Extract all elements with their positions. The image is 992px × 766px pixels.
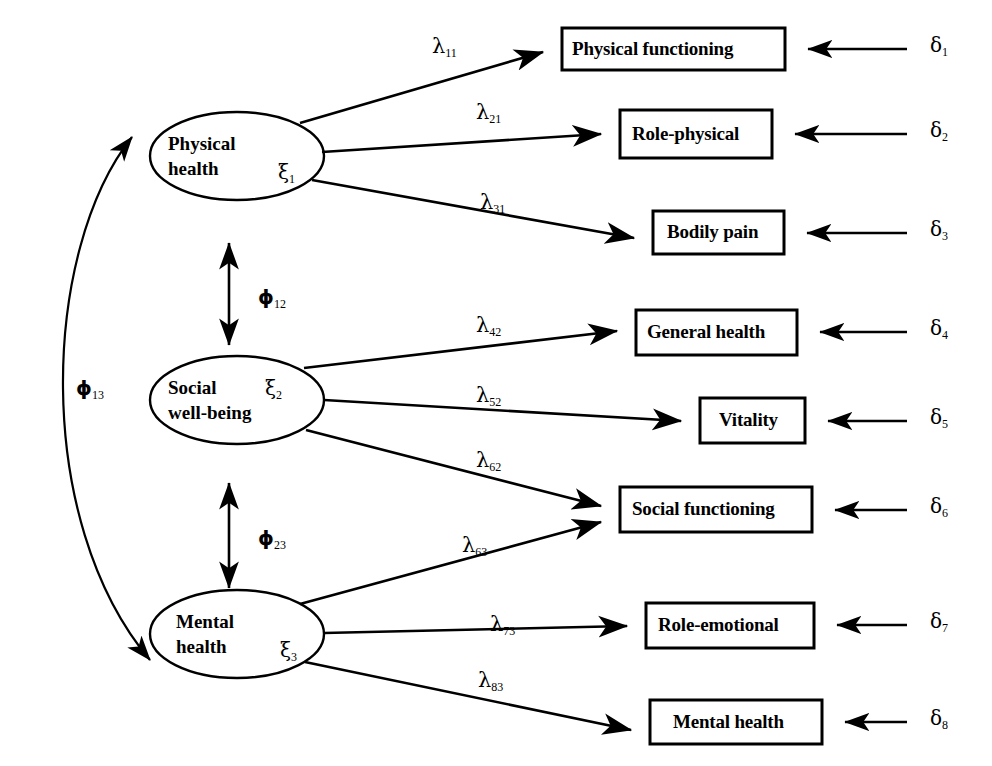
observed-box-physical-functioning bbox=[562, 28, 785, 70]
loading-path-l83 bbox=[305, 662, 631, 730]
observed-box-group bbox=[562, 28, 822, 744]
observed-box-bodily-pain bbox=[653, 211, 784, 254]
observed-box-role-physical bbox=[620, 110, 772, 158]
diagram-canvas bbox=[0, 0, 992, 766]
loading-path-l63 bbox=[300, 522, 601, 604]
loading-path-l31 bbox=[312, 180, 634, 238]
loading-path-l42 bbox=[304, 331, 617, 368]
covariance-arrow-phi13 bbox=[63, 137, 150, 660]
observed-box-general-health bbox=[636, 310, 797, 355]
loading-path-l52 bbox=[324, 400, 681, 421]
latent-ellipse-physical-health bbox=[150, 112, 324, 200]
loading-path-l11 bbox=[300, 52, 543, 123]
loading-path-group-xi2 bbox=[304, 331, 681, 506]
loading-path-group-xi3 bbox=[300, 522, 631, 730]
observed-box-role-emotional bbox=[646, 603, 814, 648]
observed-box-mental-health bbox=[650, 700, 822, 744]
loading-path-group-xi1 bbox=[300, 52, 634, 238]
observed-box-social-functioning bbox=[620, 487, 812, 532]
sem-path-diagram: Physical health ξ1 Social well-being ξ2 … bbox=[0, 0, 992, 766]
loading-path-l21 bbox=[322, 134, 601, 152]
latent-ellipse-mental-health bbox=[150, 590, 324, 678]
latent-ellipse-group bbox=[150, 112, 324, 678]
latent-ellipse-social-well-being bbox=[150, 356, 324, 444]
loading-path-l73 bbox=[324, 626, 627, 633]
observed-box-vitality bbox=[700, 398, 805, 443]
loading-path-l62 bbox=[306, 430, 601, 506]
